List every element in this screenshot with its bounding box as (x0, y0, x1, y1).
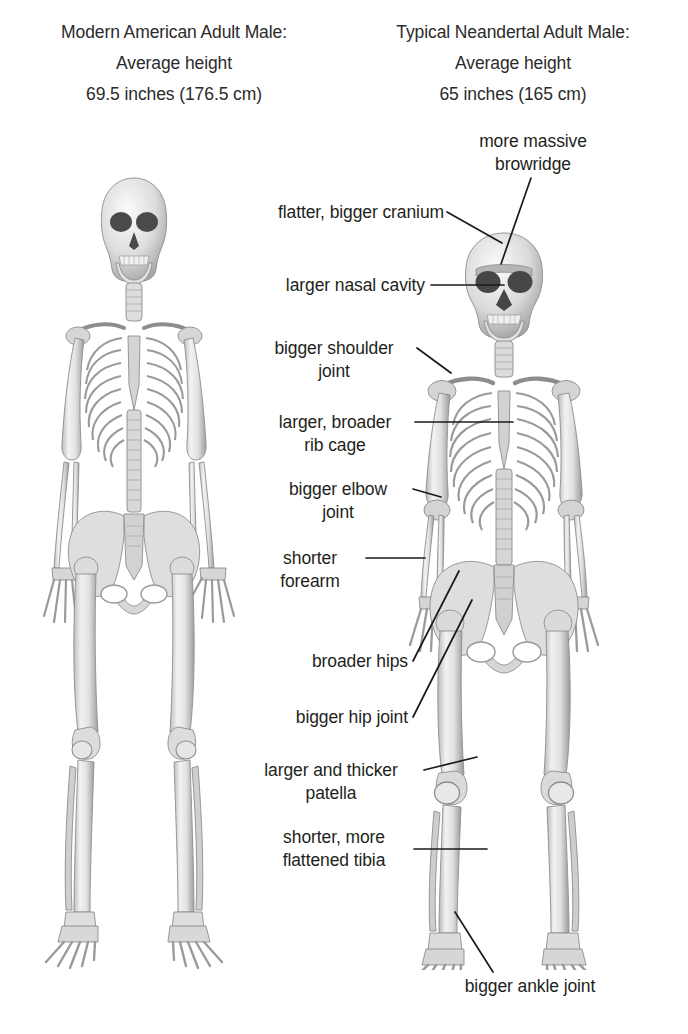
column-heading-modern: Modern American Adult Male: Average heig… (14, 17, 334, 110)
heading-line-3: 65 inches (165 cm) (352, 79, 674, 110)
heading-line-1: Modern American Adult Male: (14, 17, 334, 48)
annotation-line-1: bigger shoulder (258, 337, 410, 360)
sternum (498, 391, 510, 469)
annotation-forearm: shorter forearm (262, 547, 358, 593)
skull (101, 178, 166, 284)
femur-bones (435, 610, 574, 805)
annotation-line-1: bigger ankle joint (412, 975, 648, 998)
annotation-line-1: shorter (262, 547, 358, 570)
annotation-cranium: flatter, bigger cranium (160, 201, 444, 224)
lower-leg-bones (65, 760, 203, 912)
annotation-line-1: more massive (435, 130, 631, 153)
annotation-elbow-joint: bigger elbow joint (270, 478, 406, 524)
patella-right (549, 782, 574, 804)
spine (127, 410, 141, 512)
lower-leg-bones (429, 805, 579, 933)
femur-bones (72, 557, 196, 759)
cervical-spine (126, 283, 142, 321)
cervical-spine (495, 341, 513, 377)
heading-line-2: Average height (14, 48, 334, 79)
annotation-tibia: shorter, more flattened tibia (258, 826, 410, 872)
sternum (128, 336, 140, 410)
annotation-rib-cage: larger, broader rib cage (262, 411, 408, 457)
annotation-line-2: browridge (435, 153, 631, 176)
annotation-line-2: forearm (262, 570, 358, 593)
annotation-ankle-joint: bigger ankle joint (412, 975, 648, 998)
heading-line-2: Average height (352, 48, 674, 79)
annotation-line-1: larger and thicker (246, 759, 416, 782)
heading-line-3: 69.5 inches (176.5 cm) (14, 79, 334, 110)
tibia-right (547, 805, 569, 933)
feet (408, 933, 600, 970)
annotation-browridge: more massive browridge (435, 130, 631, 176)
annotation-nasal-cavity: larger nasal cavity (150, 274, 425, 297)
annotation-hip-joint: bigger hip joint (190, 706, 408, 729)
annotation-line-1: bigger hip joint (190, 706, 408, 729)
annotation-patella: larger and thicker patella (246, 759, 416, 805)
annotation-line-2: patella (246, 782, 416, 805)
annotation-line-2: flattened tibia (258, 849, 410, 872)
tibia-left (439, 805, 461, 933)
annotation-line-2: joint (270, 501, 406, 524)
annotation-line-1: flatter, bigger cranium (160, 201, 444, 224)
ankle-joint-left (428, 933, 462, 951)
annotation-line-2: rib cage (262, 434, 408, 457)
annotation-line-1: larger, broader (262, 411, 408, 434)
annotation-shoulder-joint: bigger shoulder joint (258, 337, 410, 383)
elbow-joint-left (424, 500, 450, 520)
patella-left (72, 741, 92, 759)
feet (46, 912, 222, 968)
annotation-line-1: shorter, more (258, 826, 410, 849)
skeleton-body-neandertal (408, 233, 600, 970)
patella-right (176, 741, 196, 759)
annotation-line-1: larger nasal cavity (150, 274, 425, 297)
annotation-line-2: joint (258, 360, 410, 383)
elbow-joint-right (558, 500, 584, 520)
column-heading-neandertal: Typical Neandertal Adult Male: Average h… (352, 17, 674, 110)
skeleton-typical-neandertal (388, 225, 656, 970)
annotation-hips: broader hips (200, 650, 408, 673)
diagram-canvas: Modern American Adult Male: Average heig… (0, 0, 688, 1034)
patella-left (435, 782, 460, 804)
annotation-line-1: broader hips (200, 650, 408, 673)
heading-line-1: Typical Neandertal Adult Male: (352, 17, 674, 48)
ankle-joint-right (546, 933, 580, 951)
skull (465, 233, 542, 342)
spine (496, 469, 512, 565)
hands (44, 578, 234, 622)
annotation-line-1: bigger elbow (270, 478, 406, 501)
